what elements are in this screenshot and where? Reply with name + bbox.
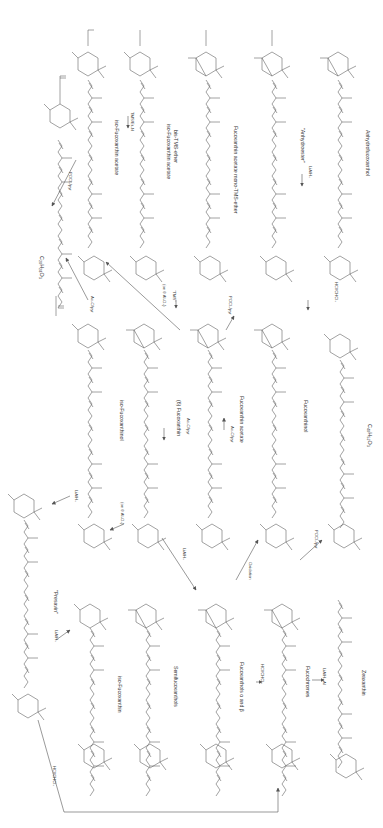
reagent-lialh4-1: LiAlH₄ <box>308 166 312 178</box>
label-zeaxanthin: Zeaxanthin <box>361 670 366 696</box>
compound-iso-fucoxanthinol <box>72 324 112 550</box>
label-anhydrofucoxanthol: Anhydrofucoxanthol <box>365 130 370 176</box>
compound-fucoxanthin-acetate-mono-tms <box>188 30 228 282</box>
reagent-hcl-3: HCl/CHCl₃ <box>52 766 56 786</box>
label-iso-fucoxanthin: iso-Fucoxanthin <box>117 676 122 713</box>
compound-anhydroester <box>254 30 294 282</box>
label-presavin: "Presavin" <box>53 590 58 614</box>
label-c20h28o3: C₂₀H₂₈O₃ <box>39 256 44 279</box>
reagent-lialh4-3: LiAlH₄ <box>182 548 186 560</box>
label-iso-fucoxanthin-acetate: iso-Fucoxanthin acetate <box>114 120 119 175</box>
label-fucochromes: Fucochromes <box>305 666 310 697</box>
compound-fucoxanthin-acetate <box>190 324 230 550</box>
label-fucoxanthin-acetate-mono-tms: Fucoxanthin acetate mono-TMS-ether <box>233 126 238 213</box>
reagent-ac2o-1: Ac₂O/pyr <box>90 296 94 313</box>
reagent-oxidation: Oxidation <box>248 562 252 580</box>
compound-semifucoxanthols <box>128 604 168 796</box>
label-fucoxanthols: Fucoxanthols α and β <box>239 662 244 712</box>
label-anhydroester: "Anhydroester" <box>300 128 305 163</box>
compound-fucoxanthinol <box>254 324 294 550</box>
compound-fucochromes <box>264 604 300 796</box>
reaction-scheme <box>0 0 383 828</box>
arrow-pocl3-2 <box>226 316 234 330</box>
reagent-hcl-2: HCl/CHCl₃ <box>260 664 264 684</box>
compound-fucoxanthin <box>126 324 166 550</box>
label-fucoxanthinol: Fucoxanthinol <box>303 400 308 432</box>
label-bis-tms-ether: bis-TMS-ether <box>173 130 178 163</box>
compound-iso-fucoxanthin-acetate <box>72 30 112 282</box>
arrow-ac2o-to-c20 <box>66 258 88 300</box>
compound-anhydrofucoxanthol <box>320 52 358 282</box>
reagent-pocl3-3: POCl₃/pyr <box>314 530 318 549</box>
compound-presavin <box>8 494 46 720</box>
reagent-ac2o-3: Ac₂O/pyr <box>230 426 234 443</box>
compound-zeaxanthin <box>330 600 364 780</box>
reagent-tms: "TMS" <box>172 290 176 302</box>
arrow-lialh4-presavin <box>52 496 70 504</box>
compound-fucoxanthols <box>198 604 234 796</box>
arrow-on-al2o3-1 <box>106 262 180 330</box>
compound-c40h52o3 <box>324 334 362 550</box>
reagent-pocl3-top: POCl₃/pyr <box>68 172 72 191</box>
label-fucoxanthin-acetate: Fucoxanthin acetate <box>239 396 244 443</box>
reagent-on-al2o3-1: (on θ Al₂O₃) <box>162 284 166 306</box>
reagent-tms-et3n: TMS/Et₃N <box>130 112 134 131</box>
compound-c20h28o3 <box>44 76 78 316</box>
reagent-lialh4-al: LiAlH₄,Al <box>322 668 326 685</box>
reagent-hcl-1: HCl/CHCl₃ <box>334 282 338 302</box>
label-semifucoxanthols: Semifucoxanthols <box>173 666 178 707</box>
label-iso-fucoxanthinol: iso-Fucoxanthinol <box>119 400 124 441</box>
label-iso-fucoxanthin-acetate-bis: iso-Fucoxanthin acetate <box>166 124 171 179</box>
compound-iso-fucoxanthin <box>74 604 112 796</box>
label-fucoxanthin: (6) Fucoxanthin <box>176 400 181 436</box>
reagent-lialh4-4: LiAlH₄ <box>54 630 58 642</box>
label-c40h52o3: C₄₀H₅₂O₃ <box>367 424 372 447</box>
reagent-ac2o-2: Ac₂O/pyr <box>186 418 190 435</box>
compound-iso-fucoxanthin-acetate-bis-tms <box>124 30 164 282</box>
reagent-on-al2o3-2: (on θ Al₂O₃) <box>120 502 124 524</box>
reagent-pocl3-2: POCl₃/pyr <box>228 296 232 315</box>
arrow-lialh4-center <box>162 538 196 590</box>
arrow-on-al2o3-2 <box>110 524 124 530</box>
reagent-lialh4-2: LiAlH₄ <box>74 490 78 502</box>
